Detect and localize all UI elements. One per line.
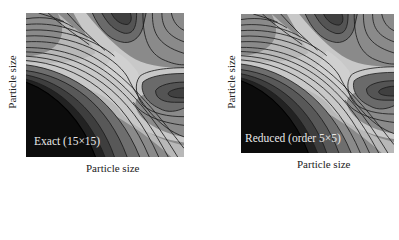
right-y-axis-label: Particle size [225, 47, 237, 117]
left-annotation: Exact (15×15) [34, 135, 100, 147]
left-y-axis-label: Particle size [6, 47, 18, 117]
right-annotation: Reduced (order 5×5) [245, 132, 341, 144]
left-x-axis-label: Particle size [86, 162, 139, 174]
right-x-axis-label: Particle size [297, 158, 350, 170]
